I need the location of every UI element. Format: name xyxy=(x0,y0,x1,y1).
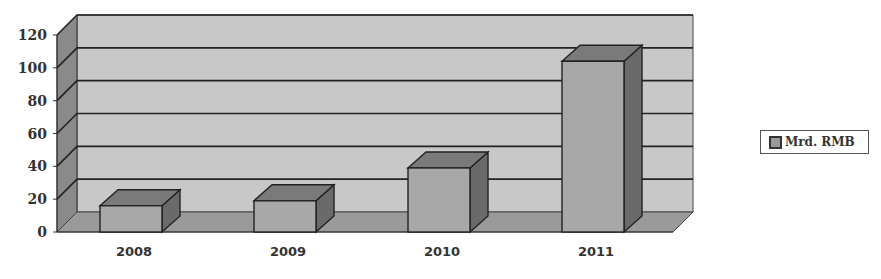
svg-text:0: 0 xyxy=(37,224,47,240)
svg-text:60: 60 xyxy=(28,126,48,142)
bar-chart: 0204060801001202008200920102011 xyxy=(0,0,881,279)
legend-swatch-icon xyxy=(769,136,782,149)
svg-text:100: 100 xyxy=(18,60,47,76)
svg-text:120: 120 xyxy=(18,27,47,43)
svg-text:2010: 2010 xyxy=(424,244,460,259)
svg-text:2009: 2009 xyxy=(270,244,306,259)
svg-text:80: 80 xyxy=(28,93,48,109)
svg-text:2011: 2011 xyxy=(578,244,614,259)
svg-text:20: 20 xyxy=(28,191,48,207)
legend-label: Mrd. RMB xyxy=(785,135,855,149)
legend: Mrd. RMB xyxy=(760,130,869,154)
svg-text:40: 40 xyxy=(28,158,48,174)
svg-text:2008: 2008 xyxy=(116,244,152,259)
